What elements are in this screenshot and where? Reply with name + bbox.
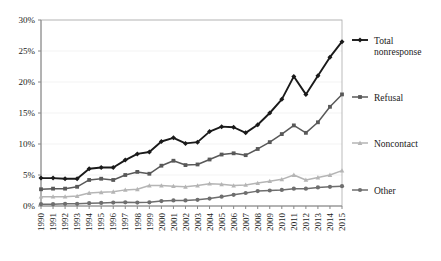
x-tick-label: 2012 (301, 213, 311, 231)
data-point (268, 188, 272, 192)
series-line (41, 186, 342, 204)
data-point (123, 200, 127, 204)
data-point (99, 177, 103, 181)
x-tick-label: 1991 (48, 213, 58, 231)
data-point (99, 165, 104, 170)
data-point (340, 168, 345, 172)
data-point (184, 163, 188, 167)
data-point (39, 202, 43, 206)
data-point (358, 188, 362, 192)
legend-label-cont: nonresponse (374, 47, 422, 57)
x-axis: 1990199119921993199419951996199719981999… (36, 206, 347, 231)
x-tick-label: 1998 (133, 213, 143, 232)
legend: TotalnonresponseRefusalNoncontactOther (352, 36, 422, 196)
series-line (41, 42, 342, 179)
data-point (280, 132, 284, 136)
legend-label: Noncontact (374, 139, 418, 149)
data-point (232, 193, 236, 197)
data-point (328, 185, 332, 189)
data-point (147, 200, 151, 204)
data-point (219, 124, 224, 129)
data-point (51, 176, 56, 181)
x-tick-label: 2003 (193, 213, 203, 232)
legend-item-total-nonresponse[interactable]: Totalnonresponse (352, 36, 422, 58)
data-point (358, 95, 362, 99)
x-tick-label: 2014 (325, 213, 335, 232)
data-point (75, 202, 79, 206)
data-point (220, 153, 224, 157)
x-tick-label: 1999 (145, 213, 155, 232)
data-point (39, 176, 44, 181)
x-tick-label: 1994 (84, 213, 94, 232)
y-tick-label: 10% (19, 139, 36, 149)
x-tick-label: 2004 (205, 213, 215, 232)
y-axis: 0%5%10%15%20%25%30% (19, 15, 42, 211)
y-tick-label: 15% (19, 108, 36, 118)
legend-item-refusal[interactable]: Refusal (352, 93, 403, 103)
data-point (207, 196, 211, 200)
data-point (316, 120, 320, 124)
y-tick-label: 5% (23, 170, 36, 180)
data-point (328, 105, 332, 109)
gridlines (41, 20, 342, 175)
data-point (244, 191, 248, 195)
data-point (123, 173, 127, 177)
data-point (358, 38, 363, 43)
data-point (63, 176, 68, 181)
data-point (111, 200, 115, 204)
legend-item-other[interactable]: Other (352, 186, 396, 196)
x-tick-label: 2009 (265, 213, 275, 232)
data-point (63, 202, 67, 206)
legend-label: Other (374, 186, 396, 196)
x-tick-label: 2001 (169, 213, 179, 231)
data-point (51, 202, 55, 206)
data-point (304, 187, 308, 191)
x-tick-label: 2002 (181, 213, 191, 231)
data-point (220, 195, 224, 199)
line-chart: 0%5%10%15%20%25%30%199019911992199319941… (0, 0, 441, 261)
data-point (232, 151, 236, 155)
chart-container: 0%5%10%15%20%25%30%199019911992199319941… (0, 0, 441, 261)
data-point (99, 201, 103, 205)
legend-item-noncontact[interactable]: Noncontact (352, 139, 418, 149)
x-tick-label: 1993 (72, 213, 82, 232)
data-point (183, 198, 187, 202)
data-point (256, 189, 260, 193)
legend-label: Refusal (374, 93, 403, 103)
data-point (159, 199, 163, 203)
y-tick-label: 30% (19, 15, 36, 25)
data-point (160, 164, 164, 168)
x-tick-label: 2006 (229, 213, 239, 232)
x-tick-label: 1995 (96, 213, 106, 232)
data-point (63, 187, 67, 191)
data-point (195, 198, 199, 202)
data-point (340, 93, 344, 97)
y-tick-label: 20% (19, 77, 36, 87)
data-point (135, 200, 139, 204)
data-point (268, 140, 272, 144)
x-tick-label: 2015 (337, 213, 347, 232)
data-point (280, 188, 284, 192)
data-point (111, 178, 115, 182)
data-point (75, 185, 79, 189)
x-tick-label: 1990 (36, 213, 46, 232)
data-point (316, 185, 320, 189)
data-point (87, 201, 91, 205)
x-tick-label: 2005 (217, 213, 227, 232)
data-point (135, 170, 139, 174)
y-tick-label: 25% (19, 46, 36, 56)
data-point (256, 147, 260, 151)
x-tick-label: 2013 (313, 213, 323, 232)
data-point (51, 187, 55, 191)
data-point (172, 159, 176, 163)
data-point (292, 124, 296, 128)
data-point (304, 131, 308, 135)
x-tick-label: 1992 (60, 213, 70, 231)
data-point (147, 172, 151, 176)
x-tick-label: 2008 (253, 213, 263, 232)
x-tick-label: 2007 (241, 213, 251, 232)
x-tick-label: 2000 (157, 213, 167, 232)
y-tick-label: 0% (23, 201, 36, 211)
data-point (39, 187, 43, 191)
x-tick-label: 1996 (108, 213, 118, 232)
